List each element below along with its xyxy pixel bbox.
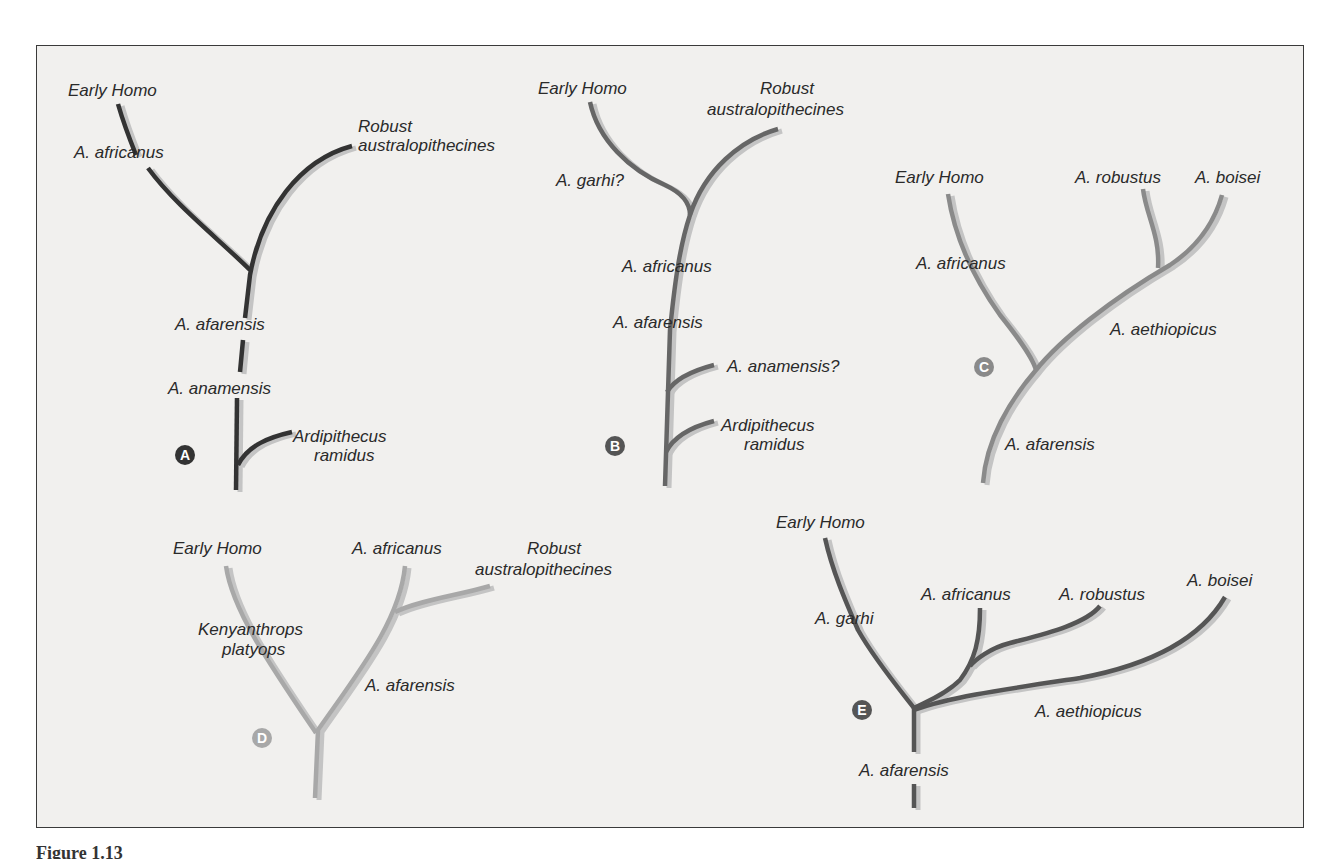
branch-line [395,586,490,612]
branch-line [245,146,352,318]
tree-E: Early HomoA. garhiA. africanusA. robustu… [776,513,1253,810]
taxon-label: Ardipithecus [292,427,387,446]
taxon-label: A. aethiopicus [1109,320,1217,339]
taxon-label: A. africanus [351,539,442,558]
taxon-label: Robust [358,117,413,136]
taxon-label: ramidus [314,446,375,465]
taxon-label: A. aethiopicus [1034,702,1142,721]
taxon-label: A. afarensis [612,313,703,332]
taxon-label: Kenyanthrops [198,620,303,639]
taxon-label: A. anamensis [167,379,271,398]
panel-badge-d: D [252,728,272,748]
taxon-label: australopithecines [707,100,845,119]
taxon-label: A. garhi? [555,171,625,190]
badge-letter: B [610,438,620,454]
taxon-label: Early Homo [538,79,627,98]
taxon-label: A. africanus [920,585,1011,604]
branch-line [948,194,1036,370]
taxon-label: Early Homo [173,539,262,558]
taxon-label: Robust [527,539,582,558]
branch-shadow [240,400,241,492]
tree-A: Early HomoA. africanusRobustaustralopith… [68,81,496,492]
badge-letter: E [857,702,866,718]
panel-badge-e: E [852,700,872,720]
panel-badge-b: B [605,436,625,456]
taxon-label: A. garhi [814,609,875,628]
taxon-label: A. robustus [1058,585,1145,604]
badge-letter: A [180,447,190,463]
taxon-label: A. africanus [621,257,712,276]
taxon-label: A. anamensis? [726,357,840,376]
branch-shadow [594,104,694,217]
badge-letter: D [257,730,267,746]
taxon-label: A. africanus [73,143,164,162]
taxon-label: australopithecines [358,136,496,155]
taxon-label: Robust [760,79,815,98]
phylogeny-diagram: Early HomoA. africanusRobustaustralopith… [0,0,1332,859]
taxon-label: A. afarensis [364,676,455,695]
tree-C: Early HomoA. robustusA. boiseiA. african… [895,168,1261,485]
tree-B: Early HomoRobustaustralopithecinesA. gar… [538,79,845,488]
branch-shadow [952,196,1040,372]
branch-line [590,102,690,215]
taxon-label: Ardipithecus [720,416,815,435]
taxon-label: ramidus [744,435,805,454]
tree-D: Early HomoA. africanusRobustaustralopith… [173,539,613,800]
badge-letter: C [979,359,989,375]
taxon-label: A. afarensis [174,315,265,334]
taxon-label: A. africanus [915,254,1006,273]
taxon-label: A. robustus [1074,168,1161,187]
panel-badge-c: C [974,357,994,377]
taxon-label: A. boisei [1186,571,1253,590]
panel-badge-a: A [175,445,195,465]
branch-line [914,608,980,708]
figure-caption: Figure 1.13 [36,846,123,859]
taxon-label: Early Homo [776,513,865,532]
taxon-label: A. afarensis [858,761,949,780]
taxon-label: A. boisei [1194,168,1261,187]
taxon-label: Early Homo [68,81,157,100]
branch-shadow [399,588,494,614]
taxon-label: australopithecines [475,560,613,579]
branch-line [240,340,243,372]
taxon-label: A. afarensis [1004,435,1095,454]
branch-line [236,398,237,490]
branch-line [914,597,1225,710]
taxon-label: platyops [221,640,286,659]
taxon-label: Early Homo [895,168,984,187]
